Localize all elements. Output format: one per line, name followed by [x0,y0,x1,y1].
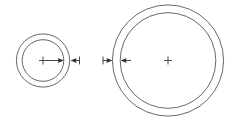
large-ring-center-cross-icon [164,57,172,65]
large-outer-gap-arrow [103,57,113,65]
large-ring-group [112,5,223,116]
concentric-rings-diagram: Two concentric ring cross-sections with … [0,0,236,121]
small-ring-group [16,34,69,87]
gap-dimension-group [71,57,113,65]
small-inner-radius-arrow [47,58,64,63]
small-outer-gap-arrow [71,57,80,65]
small-ring-center-cross-icon [39,57,47,65]
large-wall-thickness-arrow [121,58,132,63]
figure-canvas: Two concentric ring cross-sections with … [0,0,236,121]
